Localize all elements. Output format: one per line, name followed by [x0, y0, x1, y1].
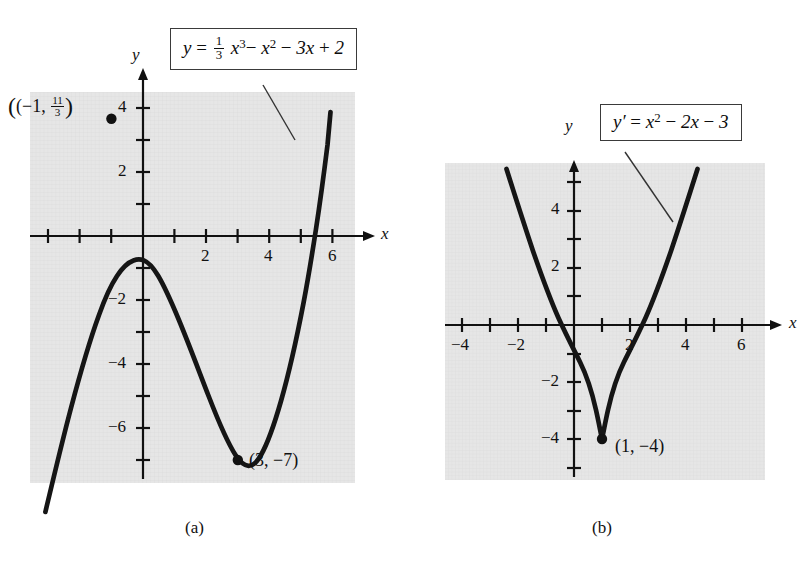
panel-b: y′ = x2 − 2x − 3 y x −4 −2 2 4 6 4 2 −2 … [0, 0, 805, 565]
vertex-dot-b [597, 434, 607, 444]
panel-caption-b: (b) [592, 518, 612, 538]
figure-container: y = 13 x3− x2 − 3x + 2 y x 2 4 6 4 2 −2 … [0, 0, 805, 565]
vertex-label-b: (1, −4) [615, 436, 664, 457]
markers-b [0, 0, 805, 565]
